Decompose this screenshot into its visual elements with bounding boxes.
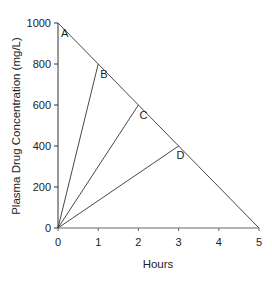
- y-tick-label: 400: [33, 140, 51, 152]
- x-tick-label: 2: [135, 236, 141, 248]
- y-tick-label: 800: [33, 58, 51, 70]
- x-axis-title: Hours: [143, 258, 174, 270]
- x-tick-label: 0: [55, 236, 61, 248]
- x-tick-label: 3: [176, 236, 182, 248]
- chart: 02004006008001000012345 ABCD Hours Plasm…: [0, 0, 272, 281]
- series-line: [58, 23, 259, 228]
- y-tick-label: 1000: [27, 17, 51, 29]
- x-tick-label: 1: [95, 236, 101, 248]
- series-line: [58, 105, 138, 228]
- x-tick-label: 4: [216, 236, 222, 248]
- plot-lines: [58, 23, 259, 228]
- y-tick-label: 200: [33, 181, 51, 193]
- point-label-d: D: [177, 149, 185, 161]
- point-label-a: A: [61, 27, 69, 39]
- x-tick-label: 5: [256, 236, 262, 248]
- point-label-b: B: [100, 68, 107, 80]
- y-tick-label: 0: [45, 222, 51, 234]
- y-tick-label: 600: [33, 99, 51, 111]
- point-label-c: C: [139, 109, 147, 121]
- series-line: [58, 64, 98, 228]
- series-line: [58, 146, 179, 228]
- y-axis-title: Plasma Drug Concentration (mg/L): [10, 37, 22, 215]
